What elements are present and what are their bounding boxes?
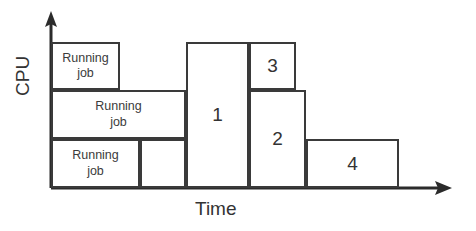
block-label: 2 bbox=[272, 127, 283, 150]
block-job-2: 2 bbox=[249, 90, 306, 188]
block-job-1: 1 bbox=[186, 42, 249, 188]
block-label: Running job bbox=[72, 148, 119, 179]
y-axis-arrow-icon bbox=[45, 11, 57, 27]
block-running-job-top: Running job bbox=[51, 42, 120, 90]
block-label: 4 bbox=[347, 152, 358, 175]
block-job-3: 3 bbox=[249, 42, 296, 90]
block-label: 1 bbox=[212, 103, 223, 126]
block-job-4: 4 bbox=[306, 139, 399, 188]
block-label: Running job bbox=[62, 51, 109, 82]
x-axis-arrow-icon bbox=[435, 181, 452, 195]
block-running-job-bottom: Running job bbox=[51, 139, 140, 188]
block-empty-slot bbox=[140, 139, 186, 188]
y-axis-label: CPU bbox=[12, 56, 34, 96]
cpu-time-diagram: Running job Running job Running job 1 3 … bbox=[0, 0, 476, 231]
block-label: Running job bbox=[95, 99, 142, 130]
block-running-job-middle: Running job bbox=[51, 90, 186, 139]
x-axis-label: Time bbox=[195, 198, 237, 220]
block-label: 3 bbox=[267, 54, 278, 77]
